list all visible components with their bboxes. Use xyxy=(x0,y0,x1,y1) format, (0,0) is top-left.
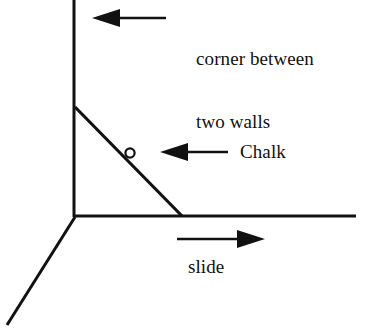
slide-arrow-icon xyxy=(177,230,265,248)
diagram-canvas: corner between two walls Chalk slide xyxy=(0,0,367,334)
corner-label-line-2: two walls xyxy=(196,111,314,132)
corner-label-line-1: corner between xyxy=(196,48,314,69)
corner-arrow-icon xyxy=(92,9,166,27)
chalk-label: Chalk xyxy=(240,141,286,162)
slide-label: slide xyxy=(188,256,224,277)
lower-left-edge-line xyxy=(7,217,75,325)
slope-line xyxy=(75,107,182,216)
chalk-circle-icon xyxy=(125,148,134,157)
